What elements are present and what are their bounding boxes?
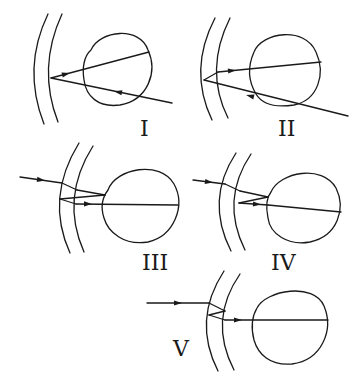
panel-iv: IV: [193, 153, 341, 275]
lens-inner-surface: [74, 146, 93, 252]
optics-diagram: IIIIIIIVV: [0, 0, 363, 390]
diagram-svg: IIIIIIIVV: [0, 0, 363, 390]
arrow-icon: [84, 201, 92, 206]
light-ray: [268, 205, 341, 212]
lens-outer-surface: [201, 18, 215, 120]
panel-label: II: [278, 116, 295, 141]
panel-label: III: [142, 250, 168, 275]
eyeball: [83, 33, 152, 105]
arrow-icon: [174, 300, 182, 305]
lens-outer-surface: [34, 14, 48, 124]
arrow-icon: [253, 201, 261, 207]
arrow-icon: [228, 68, 236, 74]
arrow-icon: [114, 89, 123, 96]
panel-label: V: [172, 336, 190, 361]
light-ray: [240, 191, 268, 197]
light-ray: [62, 183, 77, 190]
arrow-icon: [61, 70, 70, 77]
lens-inner-surface: [222, 274, 240, 370]
light-ray: [77, 190, 105, 195]
light-ray: [209, 303, 225, 311]
panel-label: IV: [271, 250, 297, 275]
lens-outer-surface: [206, 271, 224, 371]
eyeball: [252, 291, 327, 364]
panel-v: V: [147, 271, 328, 371]
panel-ii: II: [201, 18, 348, 141]
eyeball: [102, 169, 179, 242]
panel-i: I: [34, 14, 172, 141]
arrow-icon: [234, 317, 242, 322]
lens-inner-surface: [48, 14, 62, 122]
eyeball: [250, 35, 321, 106]
light-ray: [204, 72, 218, 80]
panel-iii: III: [20, 143, 179, 275]
light-ray: [225, 184, 240, 191]
light-ray: [51, 78, 172, 103]
arrow-icon: [245, 93, 254, 100]
light-ray: [204, 80, 348, 116]
lens-inner-surface: [216, 18, 230, 118]
light-ray: [60, 195, 105, 199]
panel-label: I: [140, 116, 149, 141]
